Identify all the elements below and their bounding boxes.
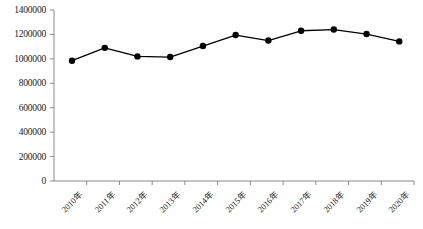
y-axis-ticks (50, 10, 54, 181)
y-axis-tick-label: 400000 (0, 127, 46, 137)
data-point-marker (102, 45, 108, 51)
line-chart: 0200000400000600000800000100000012000001… (0, 0, 423, 229)
y-axis-tick-label: 600000 (0, 103, 46, 113)
y-axis-tick-label: 1000000 (0, 54, 46, 64)
y-axis-tick-label: 1400000 (0, 5, 46, 15)
data-point-marker (331, 26, 337, 32)
data-point-marker (69, 57, 75, 63)
data-point-marker (134, 53, 140, 59)
y-axis-tick-label: 200000 (0, 152, 46, 162)
data-point-marker (396, 38, 402, 44)
x-axis-ticks (87, 181, 414, 185)
data-point-marker (200, 43, 206, 49)
data-point-marker (363, 31, 369, 37)
y-axis-tick-label: 800000 (0, 78, 46, 88)
data-point-marker (298, 28, 304, 34)
data-point-marker (265, 37, 271, 43)
y-axis-tick-label: 1200000 (0, 29, 46, 39)
data-point-marker (167, 54, 173, 60)
data-point-marker (232, 32, 238, 38)
y-axis-tick-label: 0 (0, 176, 46, 186)
